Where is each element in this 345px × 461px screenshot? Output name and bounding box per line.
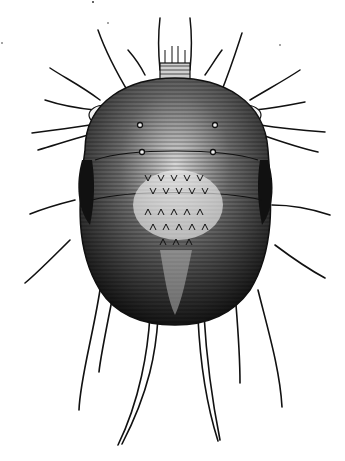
mite-body [78,78,272,325]
ink-specks [1,1,281,46]
illustration-canvas [0,0,345,461]
mouthparts [160,46,190,79]
mite-illustration [0,0,345,461]
